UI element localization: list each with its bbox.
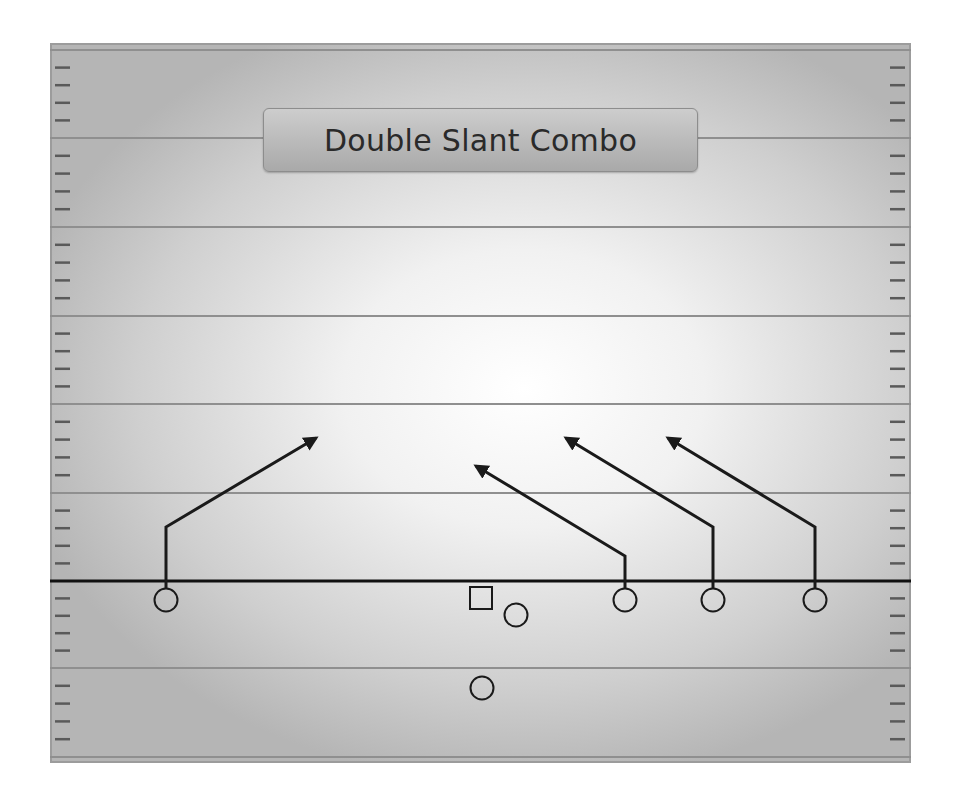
route-slot-1	[476, 466, 625, 588]
player-qb-circle-icon	[505, 604, 528, 627]
player-wr-right-circle-icon	[804, 589, 827, 612]
routes	[166, 438, 815, 588]
player-slot-2-circle-icon	[702, 589, 725, 612]
play-title-box: Double Slant Combo	[263, 108, 698, 172]
player-wr-left-circle-icon	[155, 589, 178, 612]
player-running-back-circle-icon	[471, 677, 494, 700]
players	[155, 587, 827, 700]
route-slot-2	[566, 438, 713, 588]
player-slot-1-circle-icon	[614, 589, 637, 612]
player-center-square-icon	[470, 587, 492, 609]
play-title: Double Slant Combo	[324, 123, 637, 158]
route-wr-left	[166, 438, 316, 588]
